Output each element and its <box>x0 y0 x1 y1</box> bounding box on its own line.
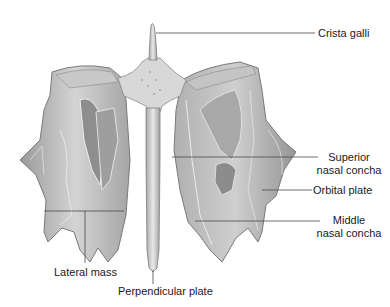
label-lateral-mass: Lateral mass <box>54 266 117 279</box>
label-perpendicular-plate: Perpendicular plate <box>118 285 213 298</box>
label-middle-nasal-concha-line1: Middle <box>310 214 388 227</box>
label-crista-galli: Crista galli <box>318 27 369 40</box>
label-middle-nasal-concha: Middle nasal concha <box>310 214 388 240</box>
right-lateral-mass <box>174 62 296 262</box>
label-superior-nasal-concha-line1: Superior <box>310 151 388 164</box>
label-superior-nasal-concha-line2: nasal concha <box>310 164 388 177</box>
crista-galli-shape <box>149 24 157 61</box>
label-orbital-plate: Orbital plate <box>313 184 372 197</box>
perpendicular-plate-shape <box>146 108 160 272</box>
label-middle-nasal-concha-line2: nasal concha <box>310 227 388 240</box>
ethmoid-bone-diagram: Crista galli Superior nasal concha Orbit… <box>0 0 390 307</box>
left-lateral-mass <box>20 66 130 262</box>
label-superior-nasal-concha: Superior nasal concha <box>310 151 388 177</box>
